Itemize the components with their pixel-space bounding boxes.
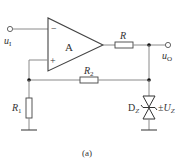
resistor-r1-branch: R1 [11, 80, 37, 130]
zener-label: DZ [128, 102, 139, 115]
bidirectional-zener-icon [141, 96, 157, 119]
input-node: uI [4, 26, 48, 48]
resistor-r-label: R [119, 30, 126, 41]
zener-voltage-label: ±UZ [158, 102, 175, 115]
opamp-inverting-sign: − [51, 23, 57, 34]
output-label: uO [162, 50, 172, 63]
zener-diode-branch: DZ ±UZ [128, 80, 175, 130]
figure-caption: (a) [82, 148, 92, 158]
opamp: − + A [48, 18, 103, 71]
resistor-r2-label: R2 [83, 65, 94, 78]
comparator-circuit-diagram: uI − + A R uO R2 R1 [0, 0, 182, 165]
resistor-r1-label: R1 [11, 102, 22, 115]
resistor-r2-icon [80, 77, 98, 83]
input-label: uI [4, 35, 12, 48]
feedback-resistor-r2: R2 [29, 65, 149, 83]
input-terminal-icon [7, 26, 12, 31]
opamp-noninverting-sign: + [50, 55, 56, 66]
noninverting-wire [29, 60, 48, 80]
output-resistor-branch: R [103, 30, 165, 48]
opamp-label: A [65, 41, 73, 53]
resistor-r-icon [115, 42, 133, 48]
output-terminal-icon [165, 42, 170, 47]
resistor-r1-icon [26, 98, 32, 118]
